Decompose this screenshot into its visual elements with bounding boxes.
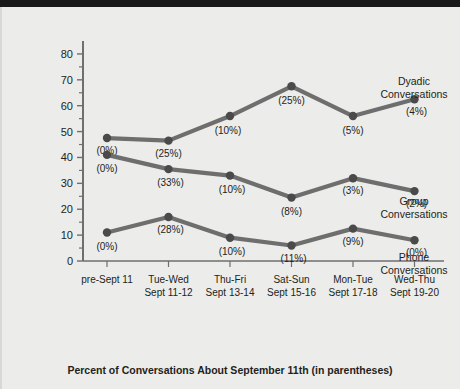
data-point: [164, 165, 172, 173]
x-axis-category-label: Mon-Tue: [333, 274, 373, 285]
y-axis-tick-label: 20: [61, 203, 73, 215]
chart-figure: Percent of Total Conversations 010203040…: [0, 0, 460, 389]
data-point-label: (9%): [342, 236, 363, 247]
x-axis-category-label: pre-Sept 11: [81, 274, 133, 285]
data-point: [287, 82, 295, 90]
y-axis-tick-label: 30: [61, 177, 73, 189]
data-point-label: (0%): [96, 163, 117, 174]
series-label: Conversations: [380, 88, 447, 100]
data-point-label: (0%): [96, 241, 117, 252]
page-left-edge: [0, 7, 2, 389]
y-axis-tick-label: 50: [61, 126, 73, 138]
series-phone-conversations: (0%)(28%)(10%)(11%)(9%)(0%): [96, 213, 427, 265]
data-point-label: (3%): [342, 185, 363, 196]
series-label: Group: [399, 195, 428, 207]
data-point: [349, 174, 357, 182]
x-axis-category-sublabel: Sept 15-16: [267, 287, 316, 298]
series-label: Conversations: [380, 264, 447, 276]
x-axis-title: Percent of Conversations About September…: [0, 364, 460, 376]
data-point-label: (25%): [278, 95, 305, 106]
x-axis-category-label: Tue-Wed: [148, 274, 189, 285]
data-point: [349, 112, 357, 120]
y-axis-tick-label: 80: [61, 48, 73, 60]
data-point: [226, 234, 234, 242]
data-point: [103, 134, 111, 142]
data-point: [410, 236, 418, 244]
y-axis-tick-label: 60: [61, 100, 73, 112]
line-chart-svg: 01020304050607080pre-Sept 11Tue-WedSept …: [57, 33, 448, 325]
data-point: [226, 112, 234, 120]
page-top-black-bar: [0, 0, 460, 7]
x-axis-category-label: Sat-Sun: [273, 274, 309, 285]
data-point-label: (11%): [281, 253, 307, 264]
series-line: [107, 217, 415, 245]
x-axis-category-sublabel: Sept 17-18: [329, 287, 378, 298]
y-axis-tick-label: 70: [61, 74, 73, 86]
data-point: [103, 151, 111, 159]
data-point-label: (8%): [281, 206, 302, 217]
plot-area: 01020304050607080pre-Sept 11Tue-WedSept …: [57, 33, 448, 325]
data-point: [103, 228, 111, 236]
data-point: [349, 224, 357, 232]
series-dyadic-conversations: (0%)(25%)(10%)(25%)(5%)(4%): [96, 82, 427, 159]
series-group-conversations: (0%)(33%)(10%)(8%)(3%)(2%): [96, 151, 427, 217]
data-point-label: (5%): [342, 125, 363, 136]
data-point-label: (10%): [219, 246, 246, 257]
data-point: [226, 171, 234, 179]
x-axis-category-sublabel: Sept 13-14: [206, 287, 255, 298]
data-point-label: (28%): [157, 224, 184, 235]
data-point: [164, 213, 172, 221]
series-label: Phone: [399, 251, 430, 263]
y-axis-tick-label: 0: [67, 255, 73, 267]
x-axis-category-sublabel: Sept 11-12: [144, 287, 193, 298]
y-axis-tick-label: 10: [61, 229, 73, 241]
data-point: [287, 193, 295, 201]
series-line: [107, 86, 415, 140]
x-axis-category-label: Thu-Fri: [214, 274, 246, 285]
data-point: [164, 136, 172, 144]
x-axis-category-sublabel: Sept 19-20: [390, 287, 439, 298]
series-label: Conversations: [380, 208, 447, 220]
data-point: [287, 241, 295, 249]
data-point-label: (10%): [215, 125, 242, 136]
y-axis-tick-label: 40: [61, 151, 73, 163]
data-point-label: (25%): [155, 148, 182, 159]
data-point-label: (10%): [219, 184, 246, 195]
series-line: [107, 155, 415, 198]
data-point-label: (4%): [406, 106, 427, 117]
series-label: Dyadic: [398, 75, 430, 87]
data-point-label: (33%): [157, 177, 184, 188]
